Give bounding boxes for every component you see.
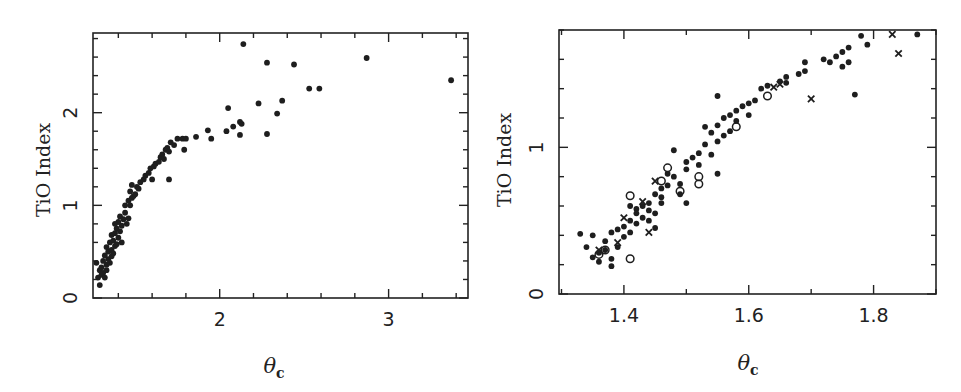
data-point-filled	[225, 105, 231, 111]
data-point-filled	[615, 227, 621, 233]
data-point-filled	[602, 247, 608, 253]
data-point-filled	[264, 60, 270, 66]
data-point-filled	[590, 232, 596, 238]
data-point-filled	[117, 228, 123, 234]
data-point-filled	[665, 183, 671, 189]
data-point-filled	[291, 62, 297, 68]
right-plot-frame	[559, 30, 936, 294]
data-point-filled	[256, 101, 262, 107]
data-point-filled	[237, 132, 243, 138]
data-point-filled	[758, 86, 764, 92]
data-point-filled	[671, 174, 677, 180]
data-point-open	[664, 164, 672, 172]
data-point-filled	[690, 155, 696, 161]
x-tick-label: 1.8	[858, 304, 888, 326]
y-tick-label: 1	[525, 141, 547, 153]
data-point-filled	[671, 147, 677, 153]
y-tick-label: 2	[59, 107, 81, 119]
plot-frame	[559, 30, 936, 294]
right-scatter-plot: 1.41.61.801 TiO Index θc	[480, 0, 961, 392]
data-point-filled	[240, 41, 246, 47]
data-point-filled	[652, 210, 658, 216]
data-point-filled	[193, 134, 199, 140]
data-point-filled	[448, 77, 454, 83]
data-point-cross	[808, 96, 814, 102]
data-point-filled	[181, 147, 187, 153]
data-point-filled	[783, 80, 789, 86]
data-point-filled	[107, 260, 113, 266]
data-point-filled	[93, 260, 99, 266]
data-point-filled	[364, 55, 370, 61]
data-point-filled	[205, 127, 211, 133]
data-point-filled	[112, 221, 118, 227]
data-point-filled	[99, 265, 105, 271]
data-point-open	[695, 173, 703, 181]
right-x-axis-subscript: c	[750, 362, 759, 378]
data-point-open	[732, 123, 740, 131]
data-point-filled	[121, 216, 127, 222]
x-tick-label: 3	[383, 308, 395, 330]
data-point-filled	[127, 189, 133, 195]
data-point-filled	[264, 131, 270, 137]
data-point-filled	[752, 98, 758, 104]
left-scatter-plot: 23012 TiO Index θc	[0, 0, 480, 392]
data-point-filled	[132, 191, 138, 197]
data-point-filled	[652, 225, 658, 231]
data-point-filled	[696, 162, 702, 168]
data-point-filled	[783, 74, 789, 80]
data-point-filled	[715, 171, 721, 177]
data-point-filled	[696, 150, 702, 156]
right-plot-points	[577, 31, 920, 269]
data-point-filled	[683, 166, 689, 172]
data-point-filled	[914, 32, 920, 38]
data-point-filled	[175, 136, 181, 142]
data-point-filled	[102, 275, 108, 281]
data-point-filled	[119, 223, 125, 229]
data-point-filled	[104, 244, 110, 250]
data-point-filled	[746, 112, 752, 118]
data-point-filled	[708, 152, 714, 158]
data-point-filled	[858, 33, 864, 39]
data-point-filled	[765, 83, 771, 89]
data-point-cross	[895, 50, 901, 56]
data-point-filled	[827, 59, 833, 65]
data-point-filled	[183, 136, 189, 142]
data-point-filled	[683, 200, 689, 206]
data-point-filled	[646, 208, 652, 214]
data-point-filled	[796, 71, 802, 77]
data-point-filled	[239, 121, 245, 127]
left-plot-frame	[93, 33, 468, 298]
data-point-filled	[136, 186, 142, 192]
data-point-filled	[640, 215, 646, 221]
data-point-filled	[683, 159, 689, 165]
data-point-filled	[609, 256, 615, 262]
data-point-filled	[166, 149, 172, 155]
data-point-open	[764, 92, 772, 100]
data-point-open	[695, 180, 703, 188]
data-point-filled	[122, 210, 128, 216]
left-scatter-panel: 23012 TiO Index θc	[0, 0, 480, 392]
left-x-axis-subscript: c	[276, 365, 285, 381]
data-point-filled	[596, 259, 602, 265]
data-point-filled	[821, 56, 827, 62]
data-point-filled	[149, 176, 155, 182]
data-point-filled	[224, 128, 230, 134]
data-point-filled	[802, 68, 808, 74]
data-point-filled	[839, 64, 845, 70]
data-point-filled	[609, 230, 615, 236]
data-point-filled	[119, 240, 125, 246]
data-point-filled	[746, 100, 752, 106]
data-point-cross	[771, 84, 777, 90]
data-point-filled	[126, 215, 132, 221]
data-point-filled	[129, 182, 135, 188]
data-point-filled	[127, 202, 133, 208]
left-plot-points	[93, 41, 454, 288]
data-point-filled	[733, 108, 739, 114]
data-point-filled	[621, 234, 627, 240]
data-point-filled	[274, 111, 280, 117]
plot-frame	[93, 33, 468, 298]
data-point-filled	[633, 210, 639, 216]
data-point-filled	[677, 181, 683, 187]
data-point-cross	[621, 215, 627, 221]
data-point-filled	[208, 136, 214, 142]
